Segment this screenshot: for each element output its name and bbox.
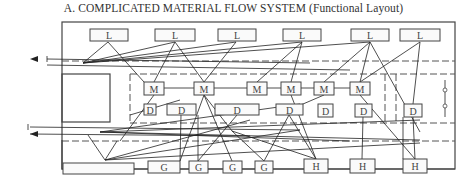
arrow-head-upper [30,56,38,62]
node-label: L [367,30,373,41]
node-label: D [360,106,367,117]
node-label: M [320,84,329,95]
node-label: M [253,84,262,95]
node-g-3: G [223,161,242,173]
node-m-4: M [281,82,301,95]
node-label: H [312,161,319,172]
node-m-5: M [314,82,334,95]
node-g-2: G [189,161,208,173]
node-d-7: D [404,104,422,117]
node-label: M [200,84,209,95]
node-label: L [172,30,178,41]
node-label: G [260,162,267,173]
node-label: M [287,84,296,95]
node-g-4: G [255,161,273,173]
node-label: G [160,162,167,173]
node-l-6: L [400,29,440,41]
node-h-3: H [403,159,427,173]
node-m-3: M [247,82,267,95]
node-label: H [411,161,418,172]
node-label: M [356,84,365,95]
right-door [443,80,447,117]
material-flow-diagram: LLLLLLMMMMMMDDDDDDDGGGGHHH [0,0,467,196]
node-l-1: L [90,29,128,41]
node-d-5: D [318,104,333,117]
node-label: H [359,161,366,172]
node-d-6: D [355,104,372,117]
node-label: G [195,162,202,173]
node-label: G [229,162,236,173]
node-label: D [233,105,240,116]
arrows [28,56,47,137]
node-label: D [178,105,185,116]
node-label: D [286,105,293,116]
node-m-2: M [194,82,214,95]
arrow-head-lower [30,131,38,137]
node-d-1: D [144,104,156,116]
node-label: D [409,106,416,117]
node-label: D [322,106,329,117]
node-l-5: L [351,29,389,41]
node-l-2: L [155,29,195,41]
node-m-6: M [350,82,370,95]
node-label: L [299,30,305,41]
node-h-1: H [304,159,328,173]
node-l-4: L [283,29,321,41]
node-label: M [150,84,159,95]
flow-lines [30,42,420,161]
node-d-3: D [215,104,259,116]
node-d-4: D [276,104,303,116]
node-label: L [234,30,240,41]
node-label: L [417,30,423,41]
node-h-2: H [350,159,375,173]
node-d-2: D [167,104,196,116]
node-g-1: G [148,161,180,173]
node-label: L [106,30,112,41]
unlabeled-station [63,163,134,174]
node-l-3: L [218,29,256,41]
node-m-1: M [144,82,164,95]
node-label: D [146,105,153,116]
